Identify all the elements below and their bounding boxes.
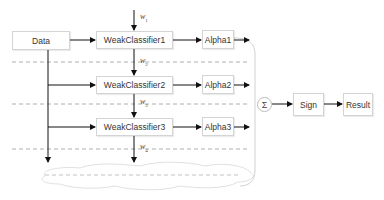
weak-classifier-1-node: WeakClassifier1 bbox=[96, 31, 173, 49]
alpha-1-label: Alpha1 bbox=[205, 35, 231, 45]
weak-classifier-2-node: WeakClassifier2 bbox=[96, 76, 173, 94]
sum-node: Σ bbox=[257, 97, 272, 112]
alpha-3-label: Alpha3 bbox=[205, 122, 231, 132]
sign-node: Sign bbox=[293, 93, 324, 116]
cloud-shape bbox=[42, 162, 253, 190]
weight-w3-label: w3 bbox=[140, 97, 148, 108]
alpha-3-node: Alpha3 bbox=[202, 117, 234, 136]
data-node: Data bbox=[12, 31, 70, 50]
alpha-2-node: Alpha2 bbox=[202, 75, 234, 94]
weak-classifier-3-label: WeakClassifier3 bbox=[104, 122, 165, 132]
result-node: Result bbox=[343, 93, 373, 116]
arrows bbox=[48, 10, 342, 162]
result-label: Result bbox=[346, 100, 370, 110]
weak-classifier-1-label: WeakClassifier1 bbox=[104, 35, 165, 45]
sign-label: Sign bbox=[300, 100, 317, 110]
alpha-2-label: Alpha2 bbox=[205, 80, 231, 90]
sum-bracket bbox=[234, 38, 255, 186]
weight-w1-label: w1 bbox=[140, 12, 148, 23]
diagram-canvas bbox=[0, 0, 384, 200]
weight-w4-label: w4 bbox=[140, 142, 148, 153]
weight-w2-label: w2 bbox=[140, 56, 148, 67]
weak-classifier-2-label: WeakClassifier2 bbox=[104, 80, 165, 90]
data-label: Data bbox=[32, 36, 50, 46]
weak-classifier-3-node: WeakClassifier3 bbox=[96, 118, 173, 136]
alpha-1-node: Alpha1 bbox=[202, 30, 234, 49]
sum-symbol: Σ bbox=[262, 100, 268, 110]
